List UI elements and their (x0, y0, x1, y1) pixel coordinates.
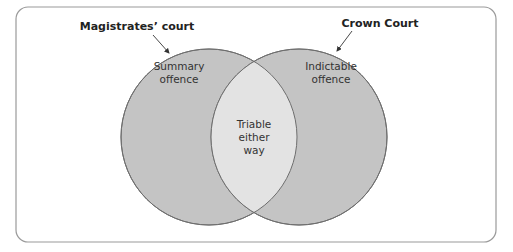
crown-court-title: Crown Court (341, 17, 418, 30)
triable-either-way-line2: either (239, 131, 271, 143)
venn-diagram: Magistrates’ court Crown Court Summary o… (0, 0, 513, 252)
summary-offence-label-line1: Summary (154, 60, 205, 72)
summary-offence-label-line2: offence (159, 73, 198, 85)
triable-either-way-line1: Triable (236, 118, 272, 130)
triable-either-way-line3: way (243, 144, 264, 156)
indictable-offence-label-line2: offence (311, 73, 350, 85)
indictable-offence-label-line1: Indictable (305, 60, 357, 72)
magistrates-court-title: Magistrates’ court (80, 20, 195, 33)
